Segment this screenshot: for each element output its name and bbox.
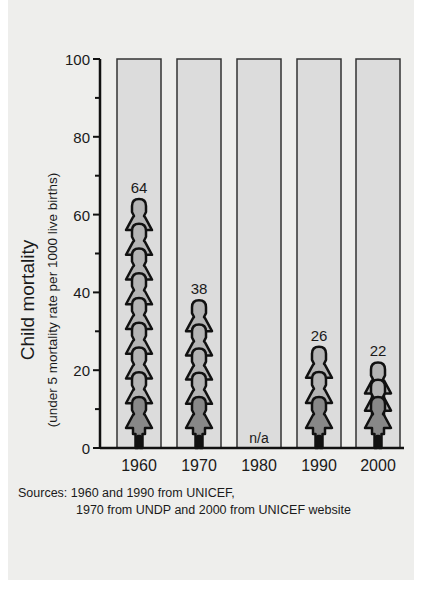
- x-tick-label: 1980: [229, 457, 289, 475]
- x-tick-label: 1970: [169, 457, 229, 475]
- value-label-2000: 22: [370, 342, 387, 359]
- value-label-1990: 26: [311, 327, 328, 344]
- value-label-1960: 64: [131, 179, 148, 196]
- x-tick-label: 2000: [348, 457, 408, 475]
- sources-line-1: Sources: 1960 and 1990 from UNICEF,: [18, 485, 351, 502]
- bar-1980: [237, 59, 281, 448]
- child-mortality-chart: Child mortality (under 5 mortality rate …: [0, 0, 424, 589]
- sources-note: Sources: 1960 and 1990 from UNICEF, 1970…: [18, 485, 351, 519]
- value-label-1970: 38: [191, 280, 208, 297]
- x-tick-label: 1990: [289, 457, 349, 475]
- sources-line-2: 1970 from UNDP and 2000 from UNICEF webs…: [18, 502, 351, 519]
- x-tick-label: 1960: [109, 457, 169, 475]
- value-label-1980: n/a: [249, 430, 269, 446]
